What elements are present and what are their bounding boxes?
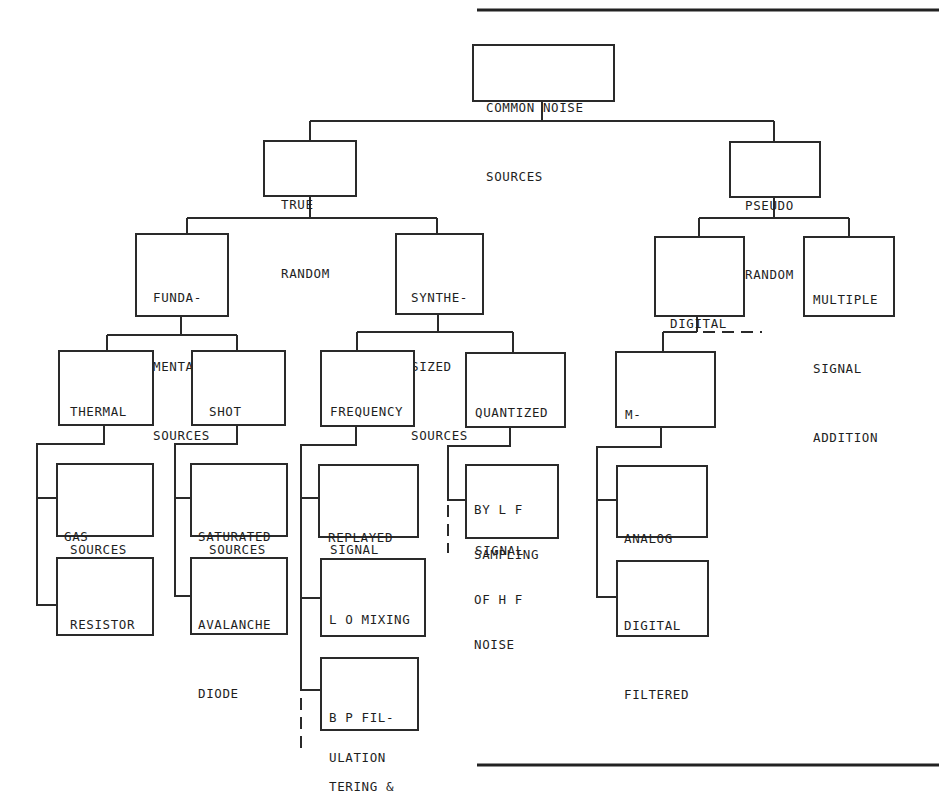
node-label-line: MULTIPLE <box>813 288 885 311</box>
node-pseudo-random: PSEUDO RANDOM <box>729 141 821 198</box>
node-label-line: DIODE <box>198 682 278 705</box>
node-lf-sampling-hf-noise: BY L F SAMPLING OF H F NOISE <box>465 464 559 539</box>
node-label-line: PSEUDO <box>745 194 811 217</box>
node-label-line: NOISE <box>474 637 549 652</box>
node-label-line: COMMON NOISE <box>486 96 605 119</box>
node-label-line: REPLAYED <box>328 526 409 549</box>
node-digital: DIGITAL <box>654 236 745 317</box>
node-label-line: ADDITION <box>813 426 885 449</box>
node-analog-filtered: ANALOG FILTERED <box>616 465 708 538</box>
node-label-line: SYNTHE- <box>411 286 474 309</box>
node-label-line: AVALANCHE <box>198 613 278 636</box>
node-quantized-or-pulsed-signal: QUANTIZED OR PULSED SIGNAL <box>465 352 566 428</box>
node-bp-filtering-detection: B P FIL- TERING & DETECTION <box>320 657 419 731</box>
node-label-line: SHOT <box>209 400 276 423</box>
node-shot-noise-sources: SHOT NOISE SOURCES <box>191 350 286 426</box>
node-fundamental-sources: FUNDA- MENTAL SOURCES <box>135 233 229 317</box>
node-label-line: SATURATED <box>198 525 278 548</box>
node-saturated-diode: SATURATED DIODE <box>190 463 288 537</box>
node-label-line: SOURCES <box>486 165 605 188</box>
node-multiple-signal-addition: MULTIPLE SIGNAL ADDITION <box>803 236 895 317</box>
node-gas-discharge: GAS DISCHARGE <box>56 463 154 537</box>
node-digital-filtered: DIGITAL FILTERED <box>616 560 709 637</box>
node-label-line: TRUE <box>281 193 347 216</box>
node-true-random: TRUE RANDOM <box>263 140 357 197</box>
node-lo-mixing-demodulation: L O MIXING AND DEMOD- ULATION <box>320 558 426 637</box>
node-replayed-recording: REPLAYED RECORDING <box>318 464 419 538</box>
node-label-line: FREQUENCY <box>330 400 405 423</box>
node-label-line: GAS <box>64 525 144 548</box>
node-label-line: QUANTIZED <box>475 401 556 424</box>
node-label-line: TERING & <box>329 775 409 791</box>
node-label-line: DIGITAL <box>670 312 735 335</box>
node-label-line: ANALOG <box>624 527 698 550</box>
node-synthesized-sources: SYNTHE- SIZED SOURCES <box>395 233 484 315</box>
node-label-line: FILTERED <box>624 683 699 706</box>
node-frequency-shifted-signal: FREQUENCY SHIFTED SIGNAL <box>320 350 415 427</box>
node-m-sequences: M- SEQUENCES <box>615 351 716 428</box>
node-label-line: RANDOM <box>281 262 347 285</box>
noise-sources-diagram: COMMON NOISE SOURCES TRUE RANDOM PSEUDO … <box>0 0 939 791</box>
node-label-line: RANDOM <box>745 263 811 286</box>
node-label-line: SAMPLING <box>474 547 549 562</box>
node-common-noise-sources: COMMON NOISE SOURCES <box>472 44 615 102</box>
node-label-line: SIGNAL <box>813 357 885 380</box>
node-label-line: DIGITAL <box>624 614 699 637</box>
node-label-line: OF H F <box>474 592 549 607</box>
node-label-line: BY L F <box>474 502 549 517</box>
node-label-line: FUNDA- <box>153 286 219 309</box>
node-thermal-noise-sources: THERMAL NOISE SOURCES <box>58 350 154 426</box>
node-avalanche-diode: AVALANCHE DIODE <box>190 557 288 635</box>
node-label-line: RESISTOR <box>70 613 144 636</box>
node-resistor: RESISTOR <box>56 557 154 636</box>
node-label-line: B P FIL- <box>329 706 409 729</box>
node-label-line: M- <box>625 403 706 426</box>
node-label-line: THERMAL <box>70 400 144 423</box>
node-label-line: L O MIXING <box>329 608 416 631</box>
